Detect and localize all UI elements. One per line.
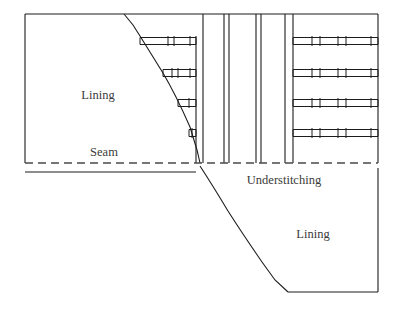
label-lining-upper: Lining	[81, 88, 115, 102]
label-lining-lower: Lining	[296, 227, 330, 241]
label-seam: Seam	[90, 145, 118, 159]
sewing-diagram-canvas: LiningSeamUnderstitchingLining	[0, 0, 396, 311]
label-understitching: Understitching	[247, 173, 322, 187]
diagram-svg: LiningSeamUnderstitchingLining	[0, 0, 396, 311]
